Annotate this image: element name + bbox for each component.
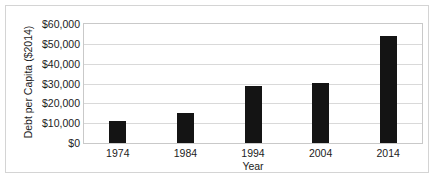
bar	[245, 86, 262, 143]
y-axis-tick-label: $60,000	[28, 19, 80, 29]
y-axis-tick-label: $10,000	[28, 118, 80, 128]
x-axis-tick-labels: 19741984199420042014	[84, 147, 422, 161]
bar	[177, 113, 194, 143]
chart-screenshot: Debt per Capita ($2014) $0$10,000$20,000…	[0, 0, 436, 182]
y-axis-tick-label: $0	[28, 138, 80, 148]
y-axis-tick-label: $40,000	[28, 59, 80, 69]
x-axis-tick-label: 1994	[223, 147, 283, 159]
bar	[312, 83, 329, 143]
x-axis-tick-label: 2004	[291, 147, 351, 159]
y-axis-tick-labels: $0$10,000$20,000$30,000$40,000$50,000$60…	[28, 23, 80, 153]
bar	[109, 121, 126, 143]
plot-area	[83, 23, 423, 144]
x-axis-tick-label: 1974	[88, 147, 148, 159]
x-axis-tick-label: 2014	[358, 147, 418, 159]
x-axis-title: Year	[84, 160, 422, 172]
y-axis-tick-label: $30,000	[28, 79, 80, 89]
y-axis-tick-label: $20,000	[28, 98, 80, 108]
x-axis-tick-label: 1984	[155, 147, 215, 159]
bar-series	[84, 24, 422, 143]
y-axis-tick-label: $50,000	[28, 39, 80, 49]
bar	[380, 36, 397, 143]
chart-frame: Debt per Capita ($2014) $0$10,000$20,000…	[5, 5, 429, 173]
